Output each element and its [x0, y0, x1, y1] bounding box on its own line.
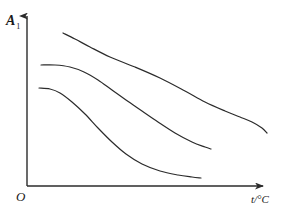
plot-canvas: [0, 0, 285, 211]
curve-top: [63, 33, 267, 133]
data-curves: [39, 33, 267, 178]
chart-figure: A1 O t/°C: [0, 0, 285, 211]
curve-bottom: [39, 88, 201, 178]
y-axis-label-subscript: 1: [15, 22, 20, 31]
x-axis-label: t/°C: [251, 194, 269, 205]
origin-label: O: [16, 190, 25, 203]
axis-lines: [27, 16, 263, 186]
y-axis-label: A1: [6, 14, 20, 31]
curve-middle: [41, 65, 211, 149]
y-axis-label-text: A: [6, 13, 15, 28]
